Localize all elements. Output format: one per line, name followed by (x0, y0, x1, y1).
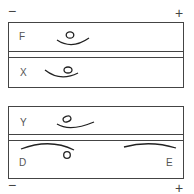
bottom-panel-frame (9, 107, 184, 179)
label-x: X (20, 67, 27, 78)
top-panel-frame (9, 23, 184, 88)
bottom-minus-sign: − (8, 177, 16, 193)
bottom-plus-sign: + (175, 180, 183, 194)
row-f-circle (66, 32, 74, 38)
top-panel: F X (9, 23, 184, 88)
top-minus-sign: − (8, 3, 16, 19)
label-e: E (166, 157, 173, 168)
row-x-circle (64, 67, 72, 73)
label-f: F (19, 31, 25, 42)
label-y: Y (20, 117, 27, 128)
row-y-curve (57, 122, 94, 128)
label-d: D (19, 157, 26, 168)
diagram-canvas: − + F X Y D E − + (0, 0, 194, 194)
row-f-curve (57, 38, 89, 45)
row-x-curve (45, 70, 78, 77)
row-d-circle (64, 152, 71, 159)
row-e-curve (124, 144, 176, 148)
bottom-panel: Y D E (9, 107, 184, 179)
row-d-curve (21, 144, 74, 150)
row-y-circle (62, 115, 71, 123)
top-plus-sign: + (175, 5, 183, 21)
